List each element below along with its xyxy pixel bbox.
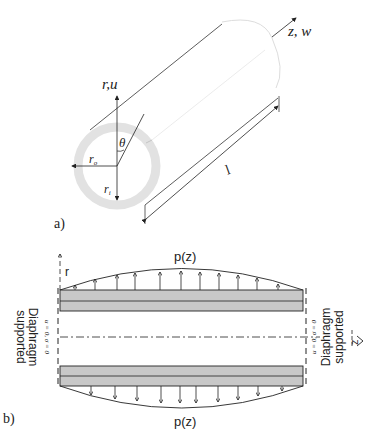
figure-canvas: z, w r,u θ ro ri l a) r p(z) <box>0 0 385 447</box>
length-label: l <box>223 162 232 177</box>
top-wall <box>60 290 303 311</box>
outer-radius-label: ro <box>89 152 98 167</box>
panel-a-label: a) <box>54 216 65 232</box>
cylinder-bottom-edge <box>145 98 278 205</box>
right-support-label-line2: supported <box>332 310 346 363</box>
theta-arc <box>117 150 124 151</box>
top-pressure-label: p(z) <box>174 249 196 264</box>
figure-a-cylinder-isometric: z, w r,u θ ro ri l a) <box>54 18 311 232</box>
z-axis-label: z <box>348 340 360 346</box>
right-support-label-line1: Diaphragm <box>319 308 333 367</box>
bottom-pressure-label: p(z) <box>174 414 196 429</box>
top-pressure-envelope <box>60 269 303 291</box>
inner-radius-label: ri <box>104 182 111 197</box>
cylinder-hidden-line <box>152 50 265 140</box>
z-w-axis-label: z, w <box>287 23 311 39</box>
top-pressure-arrows <box>75 271 278 290</box>
bottom-pressure-envelope <box>60 386 303 408</box>
length-dimension-arrow <box>146 106 278 219</box>
right-boundary-condition: u = 0, σ = 0 <box>310 320 318 354</box>
r-u-axis-label: r,u <box>102 76 117 92</box>
theta-label: θ <box>119 135 126 150</box>
left-support-label-line2: supported <box>14 310 28 363</box>
left-boundary-condition: u = 0, σ = 0 <box>43 320 51 354</box>
panel-b-label: b) <box>3 411 15 427</box>
r-axis-label: r <box>65 265 69 279</box>
figure-b-cross-section: r p(z) <box>3 249 363 429</box>
